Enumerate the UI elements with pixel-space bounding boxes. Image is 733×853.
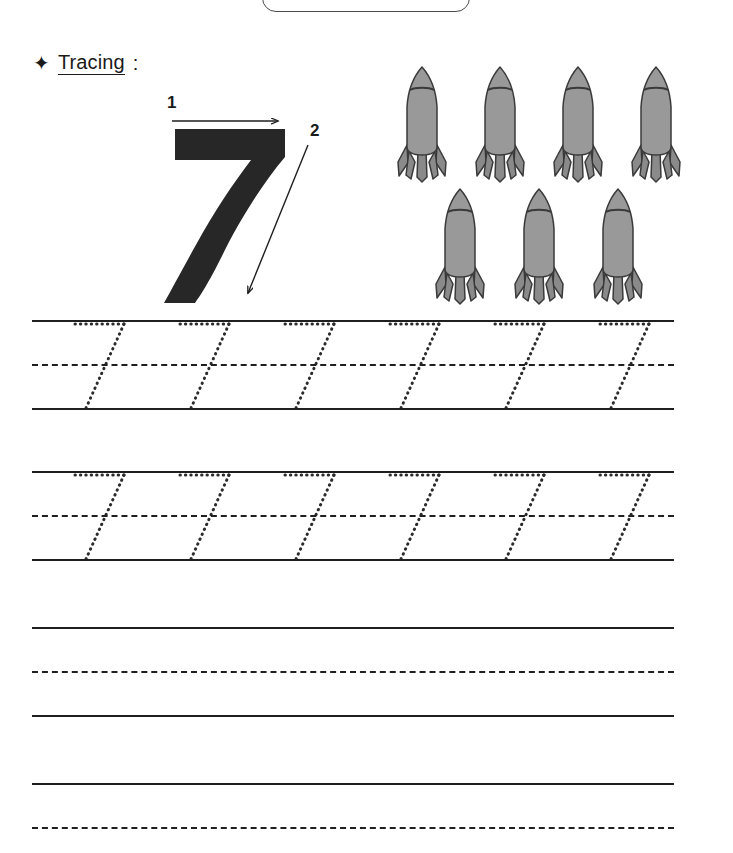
rocket-icon — [394, 63, 450, 183]
dotted-digit-guide — [72, 471, 144, 563]
title-box — [262, 0, 470, 12]
practice-row-blank-1[interactable] — [32, 627, 674, 719]
rocket-icon — [590, 185, 646, 305]
rule-line-top — [32, 783, 674, 785]
rule-line-bottom — [32, 715, 674, 717]
rocket-icon — [472, 63, 528, 183]
counting-illustration — [380, 55, 685, 315]
rocket-icon — [550, 63, 606, 183]
rule-line-top — [32, 320, 674, 322]
rocket-icon — [432, 185, 488, 305]
section-heading-colon: : — [133, 53, 139, 74]
rocket-icon — [511, 185, 567, 305]
rocket-row-bottom — [432, 185, 646, 305]
rocket-row-top — [394, 63, 684, 183]
rocket-icon — [628, 63, 684, 183]
dotted-digit-guide — [177, 320, 249, 412]
rule-line-top — [32, 471, 674, 473]
dotted-digit-guide — [387, 320, 459, 412]
rule-line-top — [32, 627, 674, 629]
section-heading-label: Tracing — [58, 52, 125, 75]
dotted-digit-guide — [597, 471, 669, 563]
dotted-digit-guide — [72, 320, 144, 412]
stroke-1-number: 1 — [167, 93, 176, 112]
practice-row-blank-2[interactable] — [32, 783, 674, 831]
dotted-guide-layer — [32, 320, 674, 412]
rule-line-bottom — [32, 408, 674, 410]
rule-line-middle — [32, 827, 674, 829]
dotted-guide-layer — [32, 471, 674, 563]
dotted-digit-guide — [387, 471, 459, 563]
section-heading: ✦ Tracing : — [33, 52, 138, 75]
dotted-digit-guide — [492, 320, 564, 412]
model-digit-diagram: 1 2 — [150, 88, 350, 313]
rule-line-middle — [32, 364, 674, 366]
practice-row-traced-2[interactable] — [32, 471, 674, 563]
dotted-digit-guide — [177, 471, 249, 563]
dotted-digit-guide — [282, 320, 354, 412]
dotted-digit-guide — [282, 471, 354, 563]
rule-line-middle — [32, 515, 674, 517]
stroke-2-number: 2 — [310, 121, 319, 140]
rule-line-bottom — [32, 559, 674, 561]
dotted-digit-guide — [597, 320, 669, 412]
dotted-digit-guide — [492, 471, 564, 563]
four-point-star-icon: ✦ — [33, 53, 50, 73]
rule-line-middle — [32, 671, 674, 673]
model-digit-glyph — [164, 129, 285, 303]
practice-row-traced-1[interactable] — [32, 320, 674, 412]
